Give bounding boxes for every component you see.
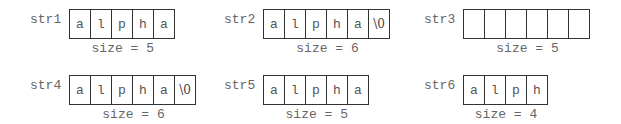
char-cell: a	[264, 76, 285, 104]
array-label: str5	[224, 78, 255, 93]
char-cell: a	[348, 76, 368, 104]
array-label: str2	[224, 12, 255, 27]
char-cell: l	[285, 10, 306, 38]
char-array-box: alph	[463, 75, 548, 105]
null-terminator-cell: \0	[369, 10, 389, 38]
array-label: str3	[424, 12, 455, 27]
char-cell	[485, 10, 506, 38]
char-cell: a	[70, 10, 91, 38]
array-label: str6	[424, 78, 455, 93]
char-cell: h	[527, 76, 547, 104]
char-cell: l	[91, 10, 112, 38]
char-array-box: alpha\0	[263, 9, 390, 39]
char-cell: p	[112, 76, 133, 104]
char-array-box	[463, 9, 590, 39]
null-terminator-cell: \0	[175, 76, 195, 104]
size-label: size = 5	[263, 107, 371, 122]
size-label: size = 5	[463, 41, 592, 56]
char-array-box: alpha	[263, 75, 369, 105]
char-cell: p	[306, 76, 327, 104]
char-cell: a	[70, 76, 91, 104]
char-cell: p	[112, 10, 133, 38]
char-cell: l	[285, 76, 306, 104]
char-cell: a	[464, 76, 485, 104]
size-label: size = 4	[463, 107, 549, 122]
size-label: size = 6	[69, 107, 198, 122]
char-cell	[527, 10, 548, 38]
char-cell	[464, 10, 485, 38]
char-cell: a	[348, 10, 369, 38]
char-cell: h	[133, 76, 154, 104]
char-cell	[506, 10, 527, 38]
size-label: size = 6	[263, 41, 392, 56]
array-label: str1	[30, 12, 61, 27]
char-cell: a	[154, 10, 174, 38]
char-cell: h	[327, 76, 348, 104]
char-cell: a	[154, 76, 175, 104]
char-cell: p	[506, 76, 527, 104]
char-array-box: alpha\0	[69, 75, 196, 105]
char-array-box: alpha	[69, 9, 175, 39]
char-cell: h	[327, 10, 348, 38]
char-cell: l	[485, 76, 506, 104]
char-cell: h	[133, 10, 154, 38]
char-cell: a	[264, 10, 285, 38]
char-cell: l	[91, 76, 112, 104]
char-cell	[548, 10, 569, 38]
array-label: str4	[30, 78, 61, 93]
size-label: size = 5	[69, 41, 177, 56]
char-cell	[569, 10, 589, 38]
char-cell: p	[306, 10, 327, 38]
